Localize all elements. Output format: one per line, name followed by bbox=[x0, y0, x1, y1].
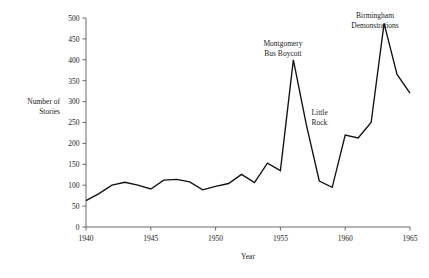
annotation-montgomery-bus-boycott: MontgomeryBus Boycott bbox=[263, 39, 302, 58]
y-tick-label: 350 bbox=[68, 77, 80, 86]
y-axis-title-line: Number of bbox=[27, 97, 60, 106]
x-tick-label: 1950 bbox=[208, 234, 223, 243]
annotation-line: Demonstrations bbox=[351, 21, 399, 30]
x-tick-label: 1940 bbox=[79, 234, 94, 243]
y-tick-label: 450 bbox=[68, 35, 80, 44]
annotation-line: Bus Boycott bbox=[264, 49, 302, 58]
x-tick-label: 1960 bbox=[338, 234, 353, 243]
y-tick-label: 250 bbox=[68, 118, 80, 127]
data-series-line bbox=[86, 23, 410, 200]
chart-container: 0501001502002503003504004505001940194519… bbox=[0, 0, 429, 278]
x-axis-title: Year bbox=[241, 252, 255, 261]
y-tick-label: 500 bbox=[68, 14, 80, 23]
y-tick-label: 400 bbox=[68, 56, 80, 65]
line-chart: 0501001502002503003504004505001940194519… bbox=[0, 0, 429, 278]
x-tick-label: 1965 bbox=[403, 234, 418, 243]
annotation-line: Rock bbox=[312, 118, 328, 127]
x-tick-label: 1945 bbox=[143, 234, 158, 243]
x-tick-label: 1955 bbox=[273, 234, 288, 243]
y-tick-label: 150 bbox=[68, 160, 80, 169]
annotation-line: Montgomery bbox=[263, 39, 302, 48]
y-tick-label: 300 bbox=[68, 97, 80, 106]
y-tick-label: 50 bbox=[72, 202, 80, 211]
y-tick-label: 200 bbox=[68, 139, 80, 148]
y-tick-label: 0 bbox=[76, 223, 80, 232]
annotation-little-rock: LittleRock bbox=[312, 108, 329, 127]
y-axis-title-line: Stories bbox=[39, 107, 60, 116]
annotation-line: Birmingham bbox=[356, 11, 394, 20]
annotation-birmingham-demonstrations: BirminghamDemonstrations bbox=[351, 11, 399, 30]
y-tick-label: 100 bbox=[68, 181, 80, 190]
annotation-line: Little bbox=[312, 108, 329, 117]
